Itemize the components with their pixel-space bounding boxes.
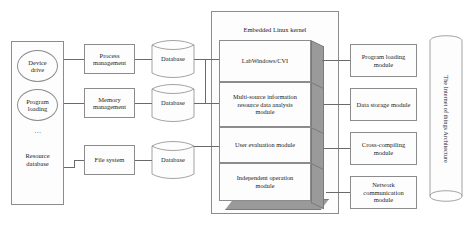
module-box-label: Network communication module <box>363 181 403 203</box>
module-box-label: Program loading module <box>362 53 406 68</box>
connector-panel-to-process <box>64 59 84 60</box>
kernel-stack-side-face-4 <box>311 163 324 209</box>
management-box-memory: Memory management <box>84 88 135 118</box>
connector-resource-db-to-filesystem-seg3 <box>74 160 84 161</box>
kernel-layer-multi-source-analysis: Multi-source information resource data a… <box>219 82 311 127</box>
module-box-label: Cross-compiling module <box>362 141 405 156</box>
database-label: Database <box>148 55 198 62</box>
database-cylinder-3: Database <box>148 139 198 181</box>
connector-bus-to-kernel-layer1 <box>205 59 219 60</box>
module-box-network-communication: Network communication module <box>350 176 417 209</box>
resource-item-label: Device drive <box>28 59 46 74</box>
kernel-layer-labwindows-cvi: LabWindows/CVI <box>219 40 311 82</box>
management-box-label: File system <box>95 156 125 163</box>
database-label: Database <box>148 156 198 163</box>
connector-panel-to-memory <box>64 103 84 104</box>
kernel-layer-label: Multi-source information resource data a… <box>233 93 297 116</box>
kernel-layer-label: Independent operation module <box>237 174 293 189</box>
connector-process-to-database1 <box>135 59 152 60</box>
resource-item-label: Program loading <box>26 98 48 113</box>
resource-item-resource-database: Resource database <box>11 152 64 168</box>
connector-filesystem-to-database3 <box>135 160 152 161</box>
module-box-cross-compiling: Cross-compiling module <box>350 132 417 165</box>
management-box-label: Memory management <box>93 96 126 111</box>
connector-resource-db-to-filesystem-seg2 <box>74 160 75 168</box>
kernel-layer-label: LabWindows/CVI <box>242 57 288 65</box>
kernel-layer-user-evaluation: User evaluation module <box>219 127 311 163</box>
iot-cylinder-label: The Internet of things Architecture <box>443 75 450 162</box>
connector-kernel-layer2-to-data-storage <box>324 104 350 105</box>
connector-kernel-layer3-to-cross-compiling <box>324 148 350 149</box>
connector-database-bus-vertical <box>205 59 206 104</box>
management-box-file-system: File system <box>84 145 135 175</box>
connector-kernel-layer1-to-program-loading <box>322 60 350 61</box>
database-cylinder-2: Database <box>148 82 198 124</box>
kernel-layer-label: User evaluation module <box>235 141 295 149</box>
database-cylinder-1: Database <box>148 38 198 80</box>
database-label: Database <box>148 99 198 106</box>
management-box-process: Process management <box>84 44 135 74</box>
module-box-program-loading: Program loading module <box>350 44 417 77</box>
iot-architecture-cylinder: The Internet of things Architecture <box>428 31 464 206</box>
kernel-title: Embedded Linux kernel <box>211 26 339 33</box>
connector-bus-to-kernel-layer2 <box>205 103 219 104</box>
resource-item-program-loading: Program loading <box>17 89 58 121</box>
module-box-label: Data storage module <box>357 101 411 108</box>
connector-kernel-layer4-to-network-communication <box>326 192 350 193</box>
management-box-label: Process management <box>93 52 126 67</box>
module-box-data-storage: Data storage module <box>350 88 417 121</box>
connector-memory-to-database2 <box>135 103 152 104</box>
kernel-layer-independent-operation: Independent operation module <box>219 163 311 201</box>
connector-database3-to-kernel-layer3 <box>194 146 219 147</box>
resource-item-ellipsis: … <box>30 127 46 135</box>
resource-item-device-drive: Device drive <box>17 50 58 82</box>
architecture-diagram: Device drive Program loading … Resource … <box>0 0 475 230</box>
